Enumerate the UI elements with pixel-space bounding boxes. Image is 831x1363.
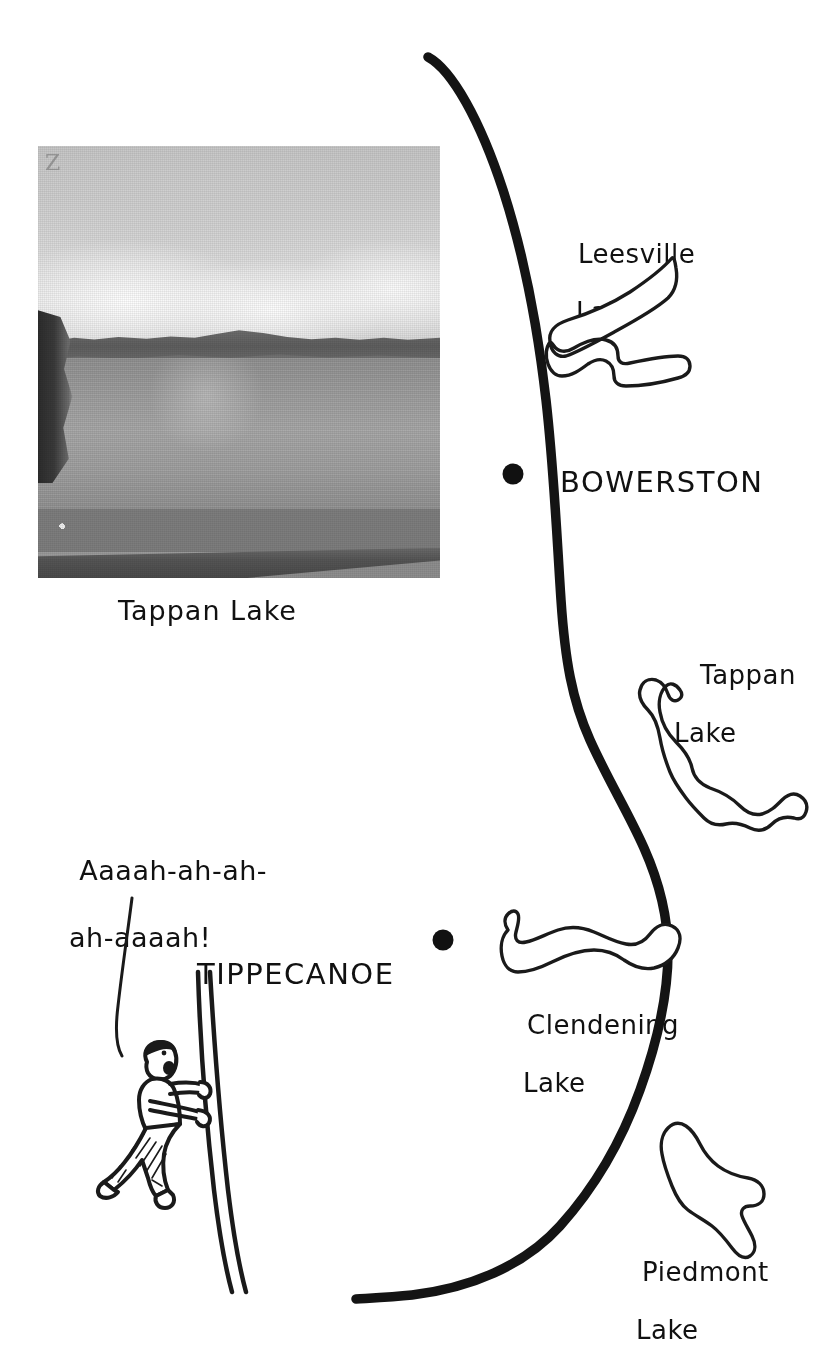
lake-label-piedmont-line2: Lake [607, 1316, 769, 1345]
town-dot-tippecanoe [433, 930, 454, 951]
photo-caption: Tappan Lake [118, 596, 297, 626]
lake-label-tappan-line2: Lake [665, 719, 796, 748]
scream-line1: Aaaah-ah-ah- [79, 855, 267, 886]
map-page: Z Tappan Lake Leesville Lake BOWERSTON T… [0, 0, 831, 1363]
scream-line2: ah-aaaah! [43, 921, 267, 955]
photo-water [38, 358, 440, 518]
figure-eye [162, 1051, 167, 1056]
lake-label-piedmont-line1: Piedmont [642, 1257, 769, 1287]
lake-outline-clendening [501, 911, 680, 972]
lake-label-clendening-line2: Lake [492, 1069, 679, 1098]
town-label-bowerston: BOWERSTON [560, 466, 764, 498]
figure-legs [104, 1124, 180, 1196]
figure-mouth [163, 1061, 175, 1075]
photo-rocky-shore [38, 509, 440, 552]
photo-watermark: Z [45, 150, 61, 175]
figure-hand-lower [197, 1110, 210, 1126]
figure-hand-upper [199, 1082, 211, 1098]
photo-sky [38, 146, 440, 345]
lake-label-leesville-line1: Leesville [578, 239, 695, 269]
tappan-lake-photo: Z [38, 146, 440, 578]
lake-label-tappan-line1: Tappan [700, 660, 796, 690]
figure-shoe-right [155, 1190, 174, 1208]
town-dot-bowerston [503, 464, 524, 485]
climbing-person-figure [98, 1040, 211, 1208]
scream-speech-text: Aaaah-ah-ah- ah-aaaah! [43, 820, 267, 1023]
